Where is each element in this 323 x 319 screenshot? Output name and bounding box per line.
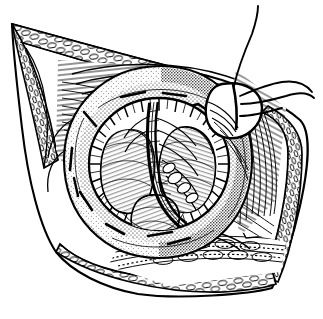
surgical-illustration-figure [0, 0, 323, 319]
ink-drawing-canvas [0, 0, 323, 319]
